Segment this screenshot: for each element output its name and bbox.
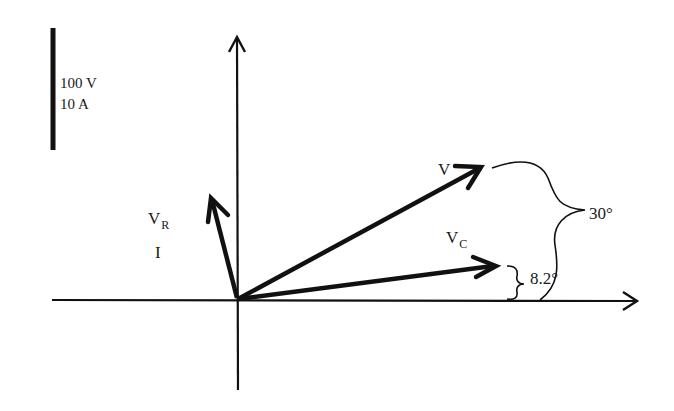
label-vc: VC	[446, 229, 467, 246]
label-vr: VR	[148, 210, 169, 227]
scale-voltage-label: 100 V	[60, 73, 97, 94]
diagram-graphics	[0, 0, 674, 411]
real-axis	[52, 300, 636, 301]
angle-label-8-2: 8.2°	[530, 270, 558, 287]
angle-label-30: 30°	[589, 205, 613, 222]
phasor-v	[238, 169, 478, 299]
angle-brace-8-2	[507, 266, 524, 299]
phasor-vr	[212, 200, 237, 298]
scale-legend: 100 V 10 A	[60, 73, 97, 115]
label-i: I	[155, 244, 161, 261]
label-v: V	[438, 161, 450, 178]
phasor-diagram: 100 V 10 A V VC VR I 30° 8.2°	[0, 0, 674, 411]
scale-current-label: 10 A	[60, 94, 97, 115]
imaginary-axis	[237, 38, 238, 390]
phasor-vc	[238, 266, 493, 299]
